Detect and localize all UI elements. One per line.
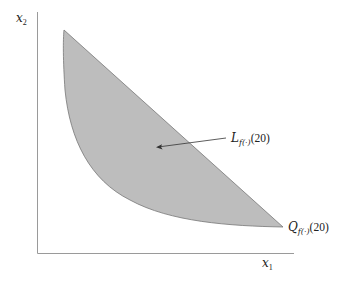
y-axis-label: x2 [16,11,27,27]
isoquant-label: Qf(·)(20) [288,220,329,236]
input-requirement-diagram: x2 x1 Lf(·)(20) Qf(·)(20) [0,0,342,283]
input-requirement-region [63,30,283,227]
x-axis-label: x1 [262,256,273,272]
level-set-label: Lf(·)(20) [230,131,270,147]
